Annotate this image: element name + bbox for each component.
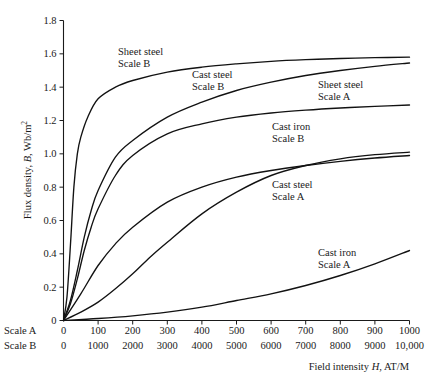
annotation-scale: Scale A — [318, 91, 351, 102]
x-tick-label-scale-a: 500 — [229, 325, 245, 336]
curve-annotation: Cast ironScale A — [318, 247, 357, 270]
x-tick-label-scale-b: 1000 — [88, 340, 109, 351]
chart-svg: 00.20.40.60.81.01.21.41.61.8 01002003004… — [0, 0, 432, 382]
chart-axes — [64, 21, 410, 321]
y-axis-title: Flux density, B, Wb/m2 — [20, 121, 33, 220]
annotation-scale: Scale B — [192, 81, 224, 92]
x-tick-label-scale-b: 6000 — [261, 340, 282, 351]
curve-annotation: Cast ironScale B — [272, 121, 311, 144]
x-tick-label-scale-b: 0 — [61, 340, 66, 351]
y-tick-label: 1.2 — [43, 115, 56, 126]
x-tick-label-scale-b: 7000 — [295, 340, 316, 351]
x-tick-label-scale-b: 2000 — [122, 340, 143, 351]
curve-annotation: Sheet steelScale B — [118, 46, 163, 69]
annotation-scale: Scale B — [272, 133, 304, 144]
annotation-material: Sheet steel — [118, 46, 163, 57]
magnetization-curve-chart: 00.20.40.60.81.01.21.41.61.8 01002003004… — [0, 0, 432, 382]
curve-annotation: Sheet steelScale A — [318, 79, 363, 102]
curve-sheet-steel-scale-b — [64, 57, 410, 320]
x-tick-label-scale-b: 4000 — [191, 340, 212, 351]
annotation-material: Cast iron — [272, 121, 311, 132]
x-tick-label-scale-a: 100 — [90, 325, 106, 336]
curve-annotation: Cast steelScale B — [192, 69, 233, 92]
y-tick-label: 1.0 — [43, 148, 56, 159]
x-tick-label-scale-a: 900 — [367, 325, 383, 336]
x-tick-label-scale-b: 8000 — [330, 340, 351, 351]
y-axis-ticks — [60, 21, 64, 321]
x-axis-scale-a-tick-labels: 01002003004005006007008009001000 — [61, 325, 420, 336]
x-tick-label-scale-a: 800 — [332, 325, 348, 336]
x-tick-label-scale-a: 400 — [194, 325, 210, 336]
x-axis-title: Field intensity H, AT/M — [309, 361, 410, 372]
y-tick-label: 0.8 — [43, 182, 56, 193]
x-tick-label-scale-a: 0 — [61, 325, 66, 336]
x-tick-label-scale-a: 600 — [263, 325, 279, 336]
annotation-material: Cast steel — [272, 179, 313, 190]
y-tick-label: 0 — [51, 315, 56, 326]
annotation-material: Sheet steel — [318, 79, 363, 90]
curve-annotations: Sheet steelScale BCast steelScale BSheet… — [118, 46, 363, 270]
annotation-material: Cast steel — [192, 69, 233, 80]
y-tick-label: 0.4 — [43, 248, 57, 259]
y-tick-label: 0.6 — [43, 215, 56, 226]
x-axis-ticks — [98, 321, 409, 325]
curve-cast-iron-scale-a — [64, 251, 410, 321]
x-tick-label-scale-a: 700 — [298, 325, 314, 336]
chart-curves — [64, 57, 410, 320]
y-tick-label: 1.6 — [43, 48, 56, 59]
x-tick-label-scale-b: 5000 — [226, 340, 247, 351]
curve-cast-iron-scale-b — [64, 156, 410, 321]
x-axis-scale-b-tick-labels: 010002000300040005000600070008000900010,… — [61, 340, 424, 351]
scale-a-row-label: Scale A — [4, 325, 37, 336]
y-tick-label: 0.2 — [43, 282, 56, 293]
scale-b-row-label: Scale B — [4, 340, 36, 351]
x-tick-label-scale-b: 10,000 — [395, 340, 424, 351]
curve-annotation: Cast steelScale A — [272, 179, 313, 202]
annotation-material: Cast iron — [318, 247, 357, 258]
y-tick-label: 1.8 — [43, 15, 56, 26]
annotation-scale: Scale B — [118, 58, 150, 69]
x-tick-label-scale-a: 1000 — [399, 325, 420, 336]
x-tick-label-scale-b: 9000 — [364, 340, 385, 351]
annotation-scale: Scale A — [318, 259, 351, 270]
x-tick-label-scale-a: 200 — [125, 325, 141, 336]
x-tick-label-scale-b: 3000 — [157, 340, 178, 351]
x-tick-label-scale-a: 300 — [159, 325, 175, 336]
annotation-scale: Scale A — [272, 191, 305, 202]
y-tick-label: 1.4 — [43, 82, 57, 93]
y-axis-tick-labels: 00.20.40.60.81.01.21.41.61.8 — [43, 15, 57, 326]
